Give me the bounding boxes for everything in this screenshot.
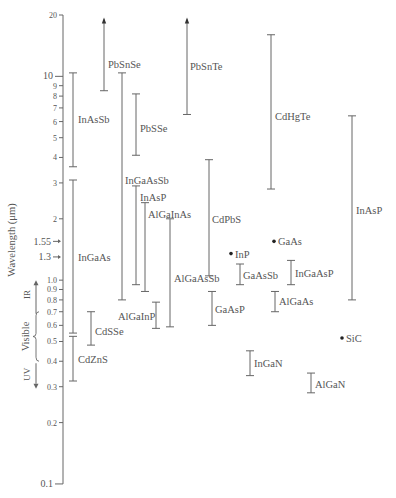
y-tick-label: 0.5 xyxy=(47,337,57,346)
y-tick-label: 0.3 xyxy=(47,383,57,392)
marker-label: 1.3 xyxy=(39,251,52,262)
material-label: CdSSe xyxy=(95,326,124,337)
range-algaas: AlGaAs xyxy=(271,291,313,311)
range-inasp: InAsP xyxy=(132,186,166,285)
y-axis: 2010987654321.00.90.80.70.60.50.40.30.20… xyxy=(34,11,64,489)
range-cdzns: CdZnS xyxy=(69,336,108,381)
material-label: InAsP xyxy=(356,205,382,216)
material-label: GaAsSb xyxy=(243,270,278,281)
y-tick-label: 0.9 xyxy=(47,285,57,294)
material-label: AlGaAsSb xyxy=(174,273,220,284)
material-label: GaAs xyxy=(278,236,302,247)
range-algaassb: AlGaAsSb xyxy=(166,219,220,327)
y-tick-label: 0.4 xyxy=(47,357,57,366)
material-label: InGaAs xyxy=(78,252,111,263)
range-gaassb: GaAsSb xyxy=(236,264,278,285)
range-gaasp: GaAsP xyxy=(208,291,245,325)
material-label: SiC xyxy=(346,333,362,344)
y-tick-label: 0.6 xyxy=(47,321,57,330)
y-tick-label: 0.1 xyxy=(41,478,54,489)
y-tick-label: 8 xyxy=(53,92,57,101)
point-marker xyxy=(272,240,276,244)
material-label: InP xyxy=(235,249,250,260)
region-label-visible: Visible xyxy=(20,321,31,351)
material-label: AlGaN xyxy=(315,379,346,390)
range-pbsnte: PbSnTe xyxy=(183,18,223,115)
wavelength-range-chart: 2010987654321.00.90.80.70.60.50.40.30.20… xyxy=(0,0,396,498)
material-label: AlGaInP xyxy=(118,311,155,322)
material-label: PbSnTe xyxy=(190,61,223,72)
material-label: GaAsP xyxy=(215,304,245,315)
material-label: InAsSb xyxy=(78,114,110,125)
y-tick-label: 9 xyxy=(53,82,57,91)
material-label: CdZnS xyxy=(78,354,108,365)
range-algan: AlGaN xyxy=(307,373,346,393)
arrow-up-icon xyxy=(102,18,106,24)
y-tick-label: 7 xyxy=(53,104,57,113)
y-tick-label: 0.7 xyxy=(47,308,57,317)
spectral-regions: IRVisibleUV xyxy=(20,280,39,389)
range-pbsse: PbSSe xyxy=(132,94,168,155)
point-marker xyxy=(340,336,344,340)
y-axis-title: Wavelength (μm) xyxy=(6,203,18,277)
range-ingaasp: InGaAsP xyxy=(287,260,334,284)
y-tick-label: 4 xyxy=(53,153,57,162)
material-label: InGaAsP xyxy=(295,268,334,279)
y-tick-label: 3 xyxy=(53,179,57,188)
material-label: AlGaAs xyxy=(279,296,313,307)
y-tick-label: 20 xyxy=(49,11,57,20)
material-label: InAsP xyxy=(140,192,166,203)
range-cdhgte: CdHgTe xyxy=(267,35,311,189)
range-ingaas: InGaAs xyxy=(69,180,111,333)
point-marker xyxy=(229,252,233,256)
y-tick-label: 0.8 xyxy=(47,296,57,305)
y-tick-label: 1.0 xyxy=(47,276,57,285)
range-ingaassb: InGaAsSb xyxy=(118,73,169,300)
material-label: InGaAsSb xyxy=(125,175,169,186)
arrow-down-icon xyxy=(34,384,39,389)
range-gaas: GaAs xyxy=(272,236,302,247)
material-label: InGaN xyxy=(254,358,283,369)
region-label-uv: UV xyxy=(22,367,32,380)
y-tick-label: 0.2 xyxy=(47,419,57,428)
range-algainp: AlGaInP xyxy=(118,302,160,328)
range-inassb: InAsSb xyxy=(69,73,110,167)
material-label: CdHgTe xyxy=(275,111,311,122)
material-ranges: PbSnSeInAsSbInGaAsCdZnSCdSSeInGaAsSbPbSS… xyxy=(69,18,382,393)
material-label: PbSnSe xyxy=(108,59,141,70)
range-sic: SiC xyxy=(340,333,362,344)
material-label: PbSSe xyxy=(140,123,168,134)
arrow-up-icon xyxy=(34,280,39,285)
range-ingan: InGaN xyxy=(246,351,283,376)
range-inp: InP xyxy=(229,249,250,260)
material-label: CdPbS xyxy=(212,214,241,225)
region-label-ir: IR xyxy=(22,290,32,299)
brace-icon xyxy=(33,312,39,362)
marker-label: 1.55 xyxy=(34,236,52,247)
y-tick-label: 5 xyxy=(53,134,57,143)
y-tick-label: 6 xyxy=(53,118,57,127)
range-inasp: InAsP xyxy=(348,116,382,300)
range-pbsnse: PbSnSe xyxy=(100,18,141,91)
arrow-up-icon xyxy=(185,18,189,24)
arrow-right-icon xyxy=(58,239,61,243)
arrow-right-icon xyxy=(58,255,61,259)
y-tick-label: 10 xyxy=(43,70,53,81)
y-tick-label: 2 xyxy=(53,215,57,224)
